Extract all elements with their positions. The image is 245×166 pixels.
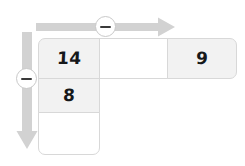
bar-segment-value: 9 [195,50,208,67]
bar-segment-value: 14 [56,50,82,67]
minus-glyph-horizontal [100,26,111,28]
arrow-down-icon [16,32,38,150]
bar-segment-known-part-right: 9 [167,38,237,79]
bar-segment-known-cell: 8 [38,78,100,113]
bar-segment-unknown-middle [99,38,168,79]
bar-segment-value: 8 [62,87,75,104]
bar-segment-unknown-cell [38,112,100,155]
bar-segment-known-part-left: 14 [38,38,100,79]
bar-model-diagram: 14 9 8 [0,0,245,166]
minus-glyph-vertical [21,78,32,80]
